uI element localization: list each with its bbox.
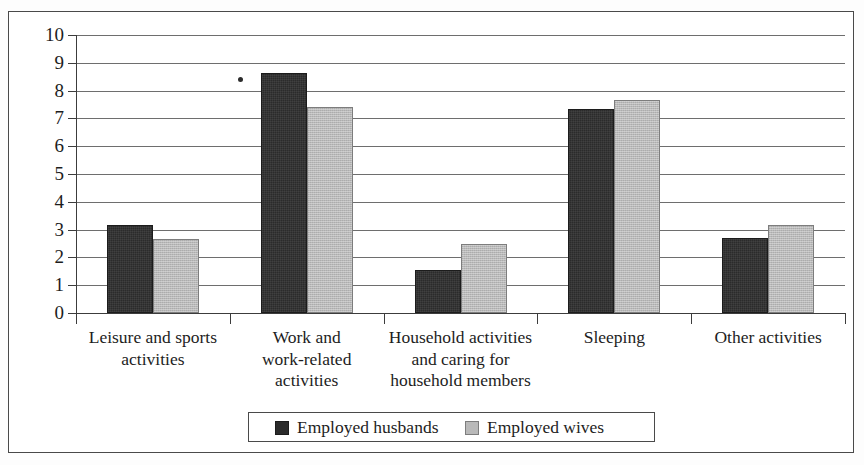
gridline-4 [76, 202, 845, 203]
scan-speck-artifact [238, 77, 243, 82]
y-tick-label-8: 8 [30, 81, 64, 100]
y-tick-5 [68, 174, 77, 175]
y-tick-label-1: 1 [30, 275, 64, 294]
x-tick-3 [537, 313, 538, 324]
y-tick-1 [68, 285, 77, 286]
dark-swatch-icon [275, 421, 289, 435]
legend-label-employed-husbands: Employed husbands [297, 418, 438, 437]
x-axis-label-1: Work andwork-relatedactivities [218, 327, 396, 392]
bar-2-series-0 [415, 270, 461, 313]
bar-0-series-0 [107, 225, 153, 313]
y-tick-8 [68, 91, 77, 92]
chart-figure: 012345678910 Leisure and sportsactivitie… [0, 0, 864, 465]
light-swatch-icon [465, 421, 479, 435]
bar-2-series-1 [461, 244, 507, 314]
legend-entry-employed-husbands: Employed husbands [275, 417, 438, 438]
y-tick-label-7: 7 [30, 108, 64, 127]
gridline-7 [76, 118, 845, 119]
y-tick-label-2: 2 [30, 247, 64, 266]
y-axis-labels: 012345678910 [22, 0, 64, 465]
bar-4-series-0 [722, 238, 768, 313]
bar-1-series-1 [307, 107, 353, 313]
x-label-2-line-2: household members [372, 370, 550, 392]
x-label-1-line-0: Work and [218, 327, 396, 349]
x-tick-1 [230, 313, 231, 324]
x-axis-label-4: Other activities [679, 327, 857, 349]
x-tick-0 [76, 313, 77, 324]
bar-0-series-1 [153, 239, 199, 313]
x-axis-label-3: Sleeping [525, 327, 703, 349]
bar-3-series-1 [614, 100, 660, 313]
y-tick-7 [68, 118, 77, 119]
y-tick-6 [68, 146, 77, 147]
y-tick-10 [68, 35, 77, 36]
gridline-3 [76, 230, 845, 231]
legend-label-employed-wives: Employed wives [487, 418, 604, 437]
chart-legend: Employed husbands Employed wives [248, 412, 655, 442]
x-label-0-line-1: activities [64, 349, 242, 371]
y-tick-label-0: 0 [30, 303, 64, 322]
bar-1-series-0 [261, 73, 307, 313]
x-axis-label-0: Leisure and sportsactivities [64, 327, 242, 370]
legend-entry-employed-wives: Employed wives [465, 417, 604, 438]
y-tick-label-5: 5 [30, 164, 64, 183]
y-tick-label-9: 9 [30, 53, 64, 72]
gridline-8 [76, 91, 845, 92]
x-tick-4 [691, 313, 692, 324]
y-tick-label-4: 4 [30, 192, 64, 211]
y-tick-4 [68, 202, 77, 203]
x-label-0-line-0: Leisure and sports [64, 327, 242, 349]
x-tick-2 [384, 313, 385, 324]
y-tick-2 [68, 257, 77, 258]
y-tick-9 [68, 63, 77, 64]
bar-3-series-0 [568, 109, 614, 313]
x-axis-label-2: Household activitiesand caring forhouseh… [372, 327, 550, 392]
x-label-1-line-2: activities [218, 370, 396, 392]
gridline-9 [76, 63, 845, 64]
y-tick-label-10: 10 [30, 25, 64, 44]
x-label-3-line-0: Sleeping [525, 327, 703, 349]
y-tick-label-6: 6 [30, 136, 64, 155]
x-label-1-line-1: work-related [218, 349, 396, 371]
gridline-5 [76, 174, 845, 175]
gridline-10 [76, 35, 845, 36]
gridline-0 [76, 313, 845, 314]
x-tick-end [845, 313, 846, 324]
x-label-2-line-0: Household activities [372, 327, 550, 349]
y-tick-label-3: 3 [30, 220, 64, 239]
gridline-6 [76, 146, 845, 147]
bar-4-series-1 [768, 225, 814, 313]
y-tick-3 [68, 230, 77, 231]
plot-area [76, 35, 845, 313]
x-label-2-line-1: and caring for [372, 349, 550, 371]
x-label-4-line-0: Other activities [679, 327, 857, 349]
